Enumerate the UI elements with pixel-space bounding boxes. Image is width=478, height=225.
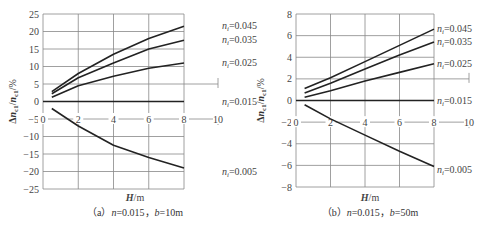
series-label: ni=0.015 [437,95,472,108]
y-tick-label: −25 [23,184,39,195]
y-tick-label: 15 [29,44,39,55]
y-tick-label: 8 [287,9,292,20]
subplot-b: 86420−2−4−6−80246810ni=0.045ni=0.035ni=0… [255,9,474,219]
y-tick-label: 2 [287,73,292,84]
x-tick-label: 10 [213,114,223,125]
x-axis-label: H/m [360,192,380,203]
series-line [52,63,184,97]
y-tick-label: −8 [281,182,292,193]
subplot-caption: （b）n=0.015，b=50m [322,207,419,218]
x-tick-label: 10 [464,117,474,128]
y-tick-label: 5 [34,79,39,90]
series-label: ni=0.005 [222,166,257,179]
y-tick-label: −5 [28,114,39,125]
y-tick-label: −2 [281,117,292,128]
y-tick-label: −15 [23,149,39,160]
series-label: ni=0.005 [437,164,472,177]
x-tick-label: 8 [182,114,187,125]
y-tick-label: −10 [23,131,39,142]
x-tick-label: 2 [76,114,81,125]
y-tick-label: 20 [29,26,39,37]
series-label: ni=0.035 [222,34,257,47]
series-line [305,42,434,93]
x-tick-label: 0 [294,117,299,128]
subplot-a: 2520151050−5−10−15−20−250246810ni=0.045n… [7,9,257,219]
x-tick-label: 0 [41,114,46,125]
series-line [305,105,434,167]
x-axis-label: H/m [125,192,145,203]
series-label: ni=0.045 [437,23,472,36]
x-tick-label: 4 [111,114,116,125]
y-axis-label: Δnc1/nc1/% [7,79,20,124]
series-label: ni=0.025 [222,57,257,70]
y-tick-label: −6 [281,160,292,171]
subplot-caption: （a）n=0.015，b=10m [87,207,183,218]
series-line [52,40,184,94]
series-label: ni=0.015 [222,96,257,109]
y-tick-label: 0 [287,95,292,106]
y-tick-label: 0 [34,96,39,107]
y-tick-label: 10 [29,61,39,72]
y-tick-label: 6 [287,30,292,41]
y-tick-label: −4 [281,138,292,149]
y-tick-label: 4 [287,52,292,63]
y-axis-label: Δnc1/nc1/% [255,78,268,123]
x-tick-label: 6 [397,117,402,128]
series-label: ni=0.045 [222,20,257,33]
x-tick-label: 4 [363,117,368,128]
x-tick-label: 6 [146,114,151,125]
figure: 2520151050−5−10−15−20−250246810ni=0.045n… [0,0,478,225]
series-label: ni=0.025 [437,58,472,71]
y-tick-label: 25 [29,9,39,20]
x-tick-label: 8 [432,117,437,128]
series-label: ni=0.035 [437,36,472,49]
y-tick-label: −20 [23,166,39,177]
